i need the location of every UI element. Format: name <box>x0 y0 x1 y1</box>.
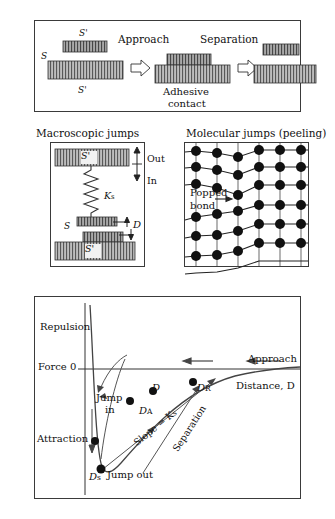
label-s-left: S <box>41 52 47 61</box>
point-DA-text: D <box>139 405 147 416</box>
label-attraction: Attraction <box>37 434 88 444</box>
block-small-s <box>77 217 117 226</box>
label-approach-top: Approach <box>118 34 169 45</box>
label-popped-bond-2: bond <box>190 201 215 211</box>
lattice-bond-rows <box>185 150 308 274</box>
label-jump-out: Jump out <box>107 470 153 480</box>
label-adhesive-contact-2: contact <box>168 99 206 109</box>
label-point-Ds: Ds <box>89 472 101 482</box>
point-DR-sub: R <box>205 384 211 393</box>
label-jump-in-2: in <box>105 405 115 415</box>
block-s-bottom-state1 <box>48 61 123 79</box>
block-s-bottom-state2 <box>155 65 230 83</box>
block-mid-s-prime-face <box>83 232 123 242</box>
label-spring-constant: Ks <box>104 191 115 201</box>
label-popped-bond-1: Popped <box>190 188 227 198</box>
label-adhesive-contact-1: Adhesive <box>163 87 209 97</box>
point-DR-text: D <box>197 382 205 393</box>
label-small-block-s: S <box>64 222 70 231</box>
jump-in-trajectory <box>101 355 127 387</box>
out-in-arrow-icon <box>132 147 142 181</box>
point-Ds-sub: s <box>97 473 101 482</box>
label-approach-graph: Approach <box>248 354 297 364</box>
macroscopic-panel-svg <box>51 143 144 266</box>
label-separation-top: Separation <box>200 34 258 45</box>
point-DA <box>126 397 134 405</box>
label-in: In <box>147 176 157 186</box>
approach-arrow-icon <box>131 60 150 76</box>
distance-axis-text: Distance, D <box>236 380 295 391</box>
caption-molecular-jumps: Molecular jumps (peeling) <box>186 127 326 139</box>
label-out: Out <box>147 154 165 164</box>
label-force-zero: 0 <box>70 362 76 372</box>
label-s-prime-top: S' <box>79 29 88 38</box>
label-jump-in-1: Jump <box>96 393 122 403</box>
block-s-prime-top-state3 <box>263 44 299 55</box>
spring-icon <box>84 166 98 217</box>
label-repulsion: Repulsion <box>40 322 90 332</box>
label-point-DA: DA <box>139 406 152 416</box>
label-point-D: D <box>152 383 160 393</box>
label-upper-block-s-prime: S' <box>81 151 90 161</box>
macroscopic-jumps-panel <box>50 142 145 267</box>
label-distance-axis: Distance, D <box>236 381 295 391</box>
spring-constant-sub: s <box>111 193 115 201</box>
label-force: Force <box>38 362 67 372</box>
label-lower-block-s-prime: S' <box>85 244 94 254</box>
point-DR <box>189 378 197 386</box>
label-point-DR: DR <box>197 383 211 393</box>
block-s-prime-top-state1 <box>63 41 107 52</box>
block-s-bottom-state3 <box>254 65 316 83</box>
point-Ds-text: D <box>89 471 97 482</box>
block-s-prime-top-state2 <box>167 54 211 65</box>
label-gap-d: D <box>133 220 141 230</box>
point-jump-in-landing <box>91 437 99 445</box>
caption-macroscopic-jumps: Macroscopic jumps <box>36 127 139 139</box>
jump-out-arrow-icon <box>89 409 95 453</box>
label-s-prime-bottom: S' <box>78 86 87 95</box>
point-DA-sub: A <box>147 407 152 416</box>
